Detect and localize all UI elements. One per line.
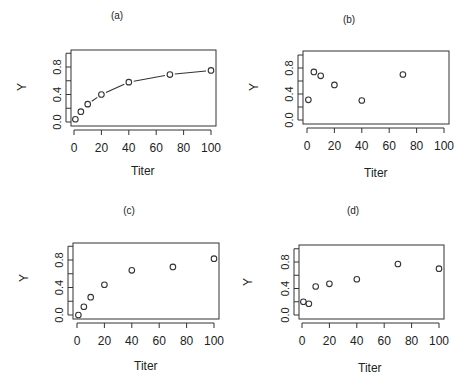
x-tick-label: 80 [405,334,419,348]
y-tick-label: 0.8 [283,60,295,75]
data-point [436,266,442,272]
x-tick-label: 80 [180,334,194,348]
data-point [99,92,105,98]
data-point [85,101,91,107]
x-tick-label: 0 [299,334,306,348]
data-point [76,312,82,318]
panel-b: (b) 0.00.40.8020406080100 Titer Y [230,0,460,193]
data-point [78,109,84,115]
plot-frame [299,245,444,319]
data-point [395,261,401,267]
x-tick-label: 40 [125,334,139,348]
x-axis-label: Titer [364,166,388,180]
y-tick-label: 0.0 [51,114,63,129]
data-point [306,301,312,307]
plot-frame [303,51,449,124]
series-segment [92,97,98,101]
series-segment [106,84,124,92]
x-tick-label: 0 [74,334,81,348]
x-tick-label: 100 [434,139,454,153]
y-tick-label: 0.4 [53,280,65,295]
x-tick-label: 40 [122,141,136,155]
panel-a: (a) 0.00.40.8020406080100 Titer Y [0,0,230,193]
x-tick-label: 40 [350,334,364,348]
y-tick-label: 0.4 [279,281,291,296]
plot-area: 0.00.40.8020406080100 [0,195,230,386]
x-tick-label: 0 [71,141,78,155]
x-axis-label: Titer [131,164,155,178]
data-point [354,276,360,282]
x-tick-label: 100 [429,334,449,348]
y-axis-label: Y [247,83,261,91]
panel-c: (c) 0.00.40.8020406080100 Titer Y [0,195,230,386]
y-axis-label: Y [241,278,255,286]
data-point [73,116,79,122]
y-tick-label: 0.0 [283,112,295,127]
data-point [301,299,307,305]
y-axis-label: Y [15,83,29,91]
panel-d: (d) 0.00.40.8020406080100 Titer Y [230,195,460,386]
x-tick-label: 60 [378,334,392,348]
y-tick-label: 0.0 [53,307,65,322]
data-point [170,264,176,270]
plot-area: 0.00.40.8020406080100 [0,0,230,193]
data-point [332,82,338,88]
y-tick-label: 0.8 [279,254,291,269]
x-tick-label: 60 [150,141,164,155]
x-tick-label: 20 [323,334,337,348]
x-tick-label: 20 [95,141,109,155]
x-tick-label: 60 [383,139,397,153]
series-segment [175,71,206,74]
y-tick-label: 0.4 [283,86,295,101]
data-point [313,284,319,290]
x-tick-label: 80 [410,139,424,153]
data-point [306,97,312,103]
x-tick-label: 80 [177,141,191,155]
x-tick-label: 100 [204,334,224,348]
x-tick-label: 0 [304,139,311,153]
x-axis-label: Titer [134,359,158,373]
y-tick-label: 0.4 [51,87,63,102]
data-point [327,281,333,287]
plot-area: 0.00.40.8020406080100 [230,0,460,193]
series-segment [134,75,165,81]
y-tick-label: 0.8 [53,252,65,267]
data-point [211,256,217,262]
data-point [208,68,214,74]
x-axis-label: Titer [358,361,382,375]
data-point [126,79,132,85]
x-tick-label: 20 [328,139,342,153]
data-point [318,73,324,79]
data-point [311,69,317,75]
plot-area: 0.00.40.8020406080100 [230,195,460,386]
plot-frame [71,50,216,126]
x-tick-label: 20 [98,334,112,348]
y-axis-label: Y [17,274,31,282]
data-point [129,268,135,274]
data-point [400,72,406,78]
data-point [167,72,173,78]
y-tick-label: 0.0 [279,307,291,322]
x-tick-label: 60 [153,334,167,348]
y-tick-label: 0.8 [51,59,63,74]
data-point [102,282,108,288]
data-point [359,98,365,104]
data-point [81,304,87,310]
plot-frame [73,243,219,319]
x-tick-label: 100 [201,141,221,155]
x-tick-label: 40 [355,139,369,153]
data-point [88,294,94,300]
